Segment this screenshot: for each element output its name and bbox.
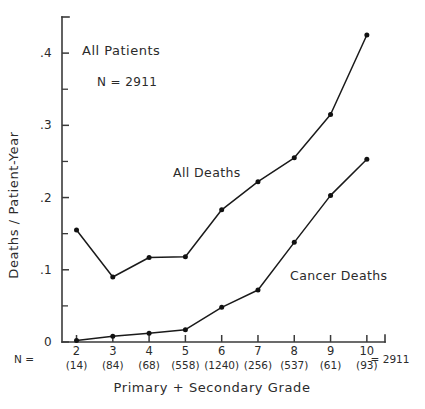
data-point (364, 33, 369, 38)
n-count-grade-6: (1240) (204, 359, 239, 371)
n-count-grade-4: (68) (138, 359, 160, 371)
n-count-labels: (14)(84)(68)(558)(1240)(256)(537)(61)(93… (66, 359, 378, 371)
n-count-grade-2: (14) (66, 359, 88, 371)
n-count-grade-5: (558) (171, 359, 199, 371)
data-point (328, 193, 333, 198)
data-point (110, 334, 115, 339)
data-point (183, 254, 188, 259)
x-tick-label-4: 4 (145, 344, 152, 358)
y-tick-label-.2: .2 (40, 191, 52, 205)
x-axis-title: Primary + Secondary Grade (113, 380, 310, 395)
x-tick-label-7: 7 (254, 344, 261, 358)
y-tick-label-.1: .1 (40, 263, 52, 277)
data-point (219, 207, 224, 212)
data-point (147, 255, 152, 260)
n-row-total: = 2911 (371, 353, 410, 365)
n-count-grade-8: (537) (280, 359, 308, 371)
data-point (364, 157, 369, 162)
n-count-grade-7: (256) (244, 359, 272, 371)
x-tick-label-9: 9 (327, 344, 334, 358)
data-point (74, 228, 79, 233)
y-tick-label-.4: .4 (40, 46, 52, 60)
n-count-grade-9: (61) (320, 359, 342, 371)
series-label-cancer-deaths: Cancer Deaths (290, 268, 388, 283)
data-point (328, 112, 333, 117)
x-tick-label-6: 6 (218, 344, 225, 358)
chart-canvas: 0.1.2.3.4 2345678910 (14)(84)(68)(558)(1… (0, 0, 425, 409)
x-tick-label-2: 2 (73, 344, 80, 358)
series-label-all-deaths: All Deaths (173, 165, 241, 180)
data-point (255, 179, 260, 184)
data-point (74, 338, 79, 343)
n-count-grade-3: (84) (102, 359, 124, 371)
y-axis-title: Deaths / Patient-Year (6, 131, 21, 278)
data-point (219, 305, 224, 310)
x-tick-label-8: 8 (291, 344, 298, 358)
y-tick-label-0: 0 (44, 335, 52, 349)
x-tick-label-5: 5 (182, 344, 189, 358)
annotation-group-n: N = 2911 (97, 75, 157, 89)
data-point (110, 275, 115, 280)
chart-figure: 0.1.2.3.4 2345678910 (14)(84)(68)(558)(1… (0, 0, 425, 409)
data-point (147, 331, 152, 336)
data-point (255, 288, 260, 293)
data-point (183, 327, 188, 332)
x-tick-label-3: 3 (109, 344, 116, 358)
y-tick-label-.3: .3 (40, 118, 52, 132)
n-row-prefix: N = (14, 353, 34, 365)
annotation-all-patients: All Patients (82, 43, 160, 58)
data-point (292, 240, 297, 245)
data-point (292, 155, 297, 160)
